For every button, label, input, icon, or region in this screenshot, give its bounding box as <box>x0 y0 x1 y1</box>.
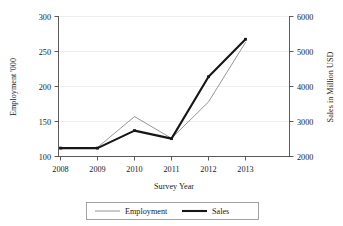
data-point-marker <box>244 38 247 41</box>
x-axis-title: Survey Year <box>154 182 194 191</box>
x-axis-label-2009: 2009 <box>89 165 105 174</box>
x-axis-label-2013: 2013 <box>237 165 253 174</box>
y-axis-right-label-2000: 2000 <box>297 153 313 162</box>
y-axis-left-title: Employment '000 <box>9 58 18 116</box>
y-axis-right-label-5000: 5000 <box>297 48 313 57</box>
data-point-marker <box>133 129 136 132</box>
x-axis-label-2012: 2012 <box>200 165 216 174</box>
y-axis-left-label-250: 250 <box>39 48 51 57</box>
data-point-marker <box>59 147 62 150</box>
y-axis-left-label-300: 300 <box>39 13 51 22</box>
x-axis-label-2008: 2008 <box>52 165 68 174</box>
x-axis-label-2010: 2010 <box>126 165 142 174</box>
data-point-marker <box>96 147 99 150</box>
y-axis-right-label-4000: 4000 <box>297 83 313 92</box>
legend-label-sales: Sales <box>212 207 229 216</box>
data-point-marker <box>207 75 210 78</box>
data-point-marker <box>170 137 173 140</box>
y-axis-left-label-150: 150 <box>39 118 51 127</box>
chart-background <box>0 0 343 226</box>
y-axis-right-label-3000: 3000 <box>297 118 313 127</box>
y-axis-left-label-200: 200 <box>39 83 51 92</box>
chart-container: 300 250 200 150 100 Employment '000 6000… <box>0 0 343 226</box>
legend-label-employment: Employment <box>125 207 168 216</box>
line-chart-svg: 300 250 200 150 100 Employment '000 6000… <box>0 0 343 226</box>
x-axis-label-2011: 2011 <box>163 165 179 174</box>
y-axis-left-label-100: 100 <box>39 153 51 162</box>
y-axis-right-title: Sales in Million USD <box>326 52 335 123</box>
y-axis-right-label-6000: 6000 <box>297 13 313 22</box>
